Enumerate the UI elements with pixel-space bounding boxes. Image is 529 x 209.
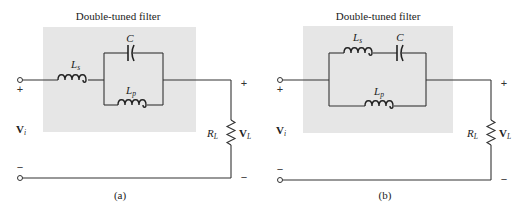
input-voltage-a: Vi: [16, 123, 26, 137]
input-voltage-b: Vi: [276, 124, 286, 138]
input-terminal-top: [278, 78, 283, 83]
input-minus-b: −: [277, 163, 283, 175]
input-plus-b: +: [277, 83, 283, 95]
input-terminal-top: [18, 78, 23, 83]
input-terminal-bottom: [278, 178, 283, 183]
resistor-rl-icon: [227, 120, 235, 145]
caption-a: (a): [114, 189, 127, 202]
panel-b: Double-tuned filter Ls C Lp + Vi − +: [276, 10, 511, 202]
output-plus-a: +: [241, 77, 247, 89]
label-c-a: C: [126, 32, 134, 44]
output-voltage-b: VL: [499, 127, 511, 141]
output-plus-b: +: [501, 77, 507, 89]
panel-a-title: Double-tuned filter: [76, 10, 161, 22]
label-rl-a: RL: [206, 127, 218, 141]
input-minus-a: −: [17, 161, 23, 173]
output-minus-b: −: [501, 173, 507, 185]
label-rl-b: RL: [466, 127, 478, 141]
panel-a: Double-tuned filter Ls C Lp + Vi −: [16, 10, 251, 202]
output-minus-a: −: [241, 171, 247, 183]
output-voltage-a: VL: [239, 127, 251, 141]
input-plus-a: +: [17, 83, 23, 95]
input-terminal-bottom: [18, 176, 23, 181]
caption-b: (b): [379, 189, 392, 202]
panel-b-title: Double-tuned filter: [336, 10, 421, 22]
resistor-rl-icon: [487, 120, 495, 145]
circuit-figure: Double-tuned filter Ls C Lp + Vi −: [0, 0, 529, 209]
label-c-b: C: [396, 31, 404, 43]
